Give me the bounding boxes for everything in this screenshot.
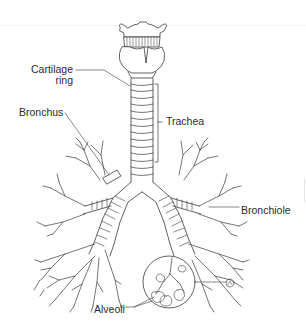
label-alveoli: Alveoli <box>94 304 125 315</box>
label-trachea: Trachea <box>166 116 204 127</box>
alveoli-detail <box>143 256 234 308</box>
label-cartilage-ring: Cartilage ring <box>31 64 73 86</box>
label-cartilage-line2: ring <box>31 75 73 86</box>
trachea <box>131 78 162 182</box>
larynx <box>119 22 166 78</box>
label-bronchiole: Bronchiole <box>241 205 291 216</box>
left-bronchioles <box>34 138 121 312</box>
bronchi <box>83 170 201 256</box>
respiratory-diagram <box>0 0 306 328</box>
label-bronchus: Bronchus <box>19 107 63 118</box>
